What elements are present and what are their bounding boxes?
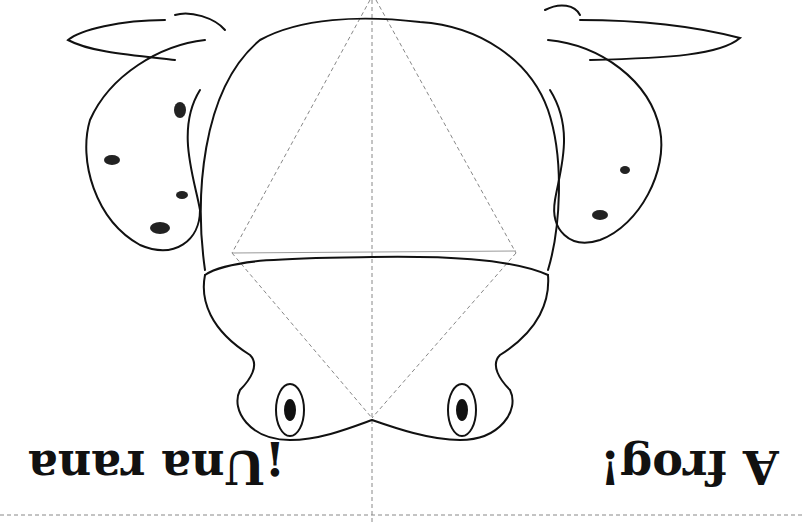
fold-line-horizontal bbox=[232, 251, 516, 253]
caption-english: A frog! bbox=[600, 444, 779, 490]
caption-spanish: ¡Una rana bbox=[28, 444, 285, 490]
frog-outline bbox=[68, 5, 740, 440]
